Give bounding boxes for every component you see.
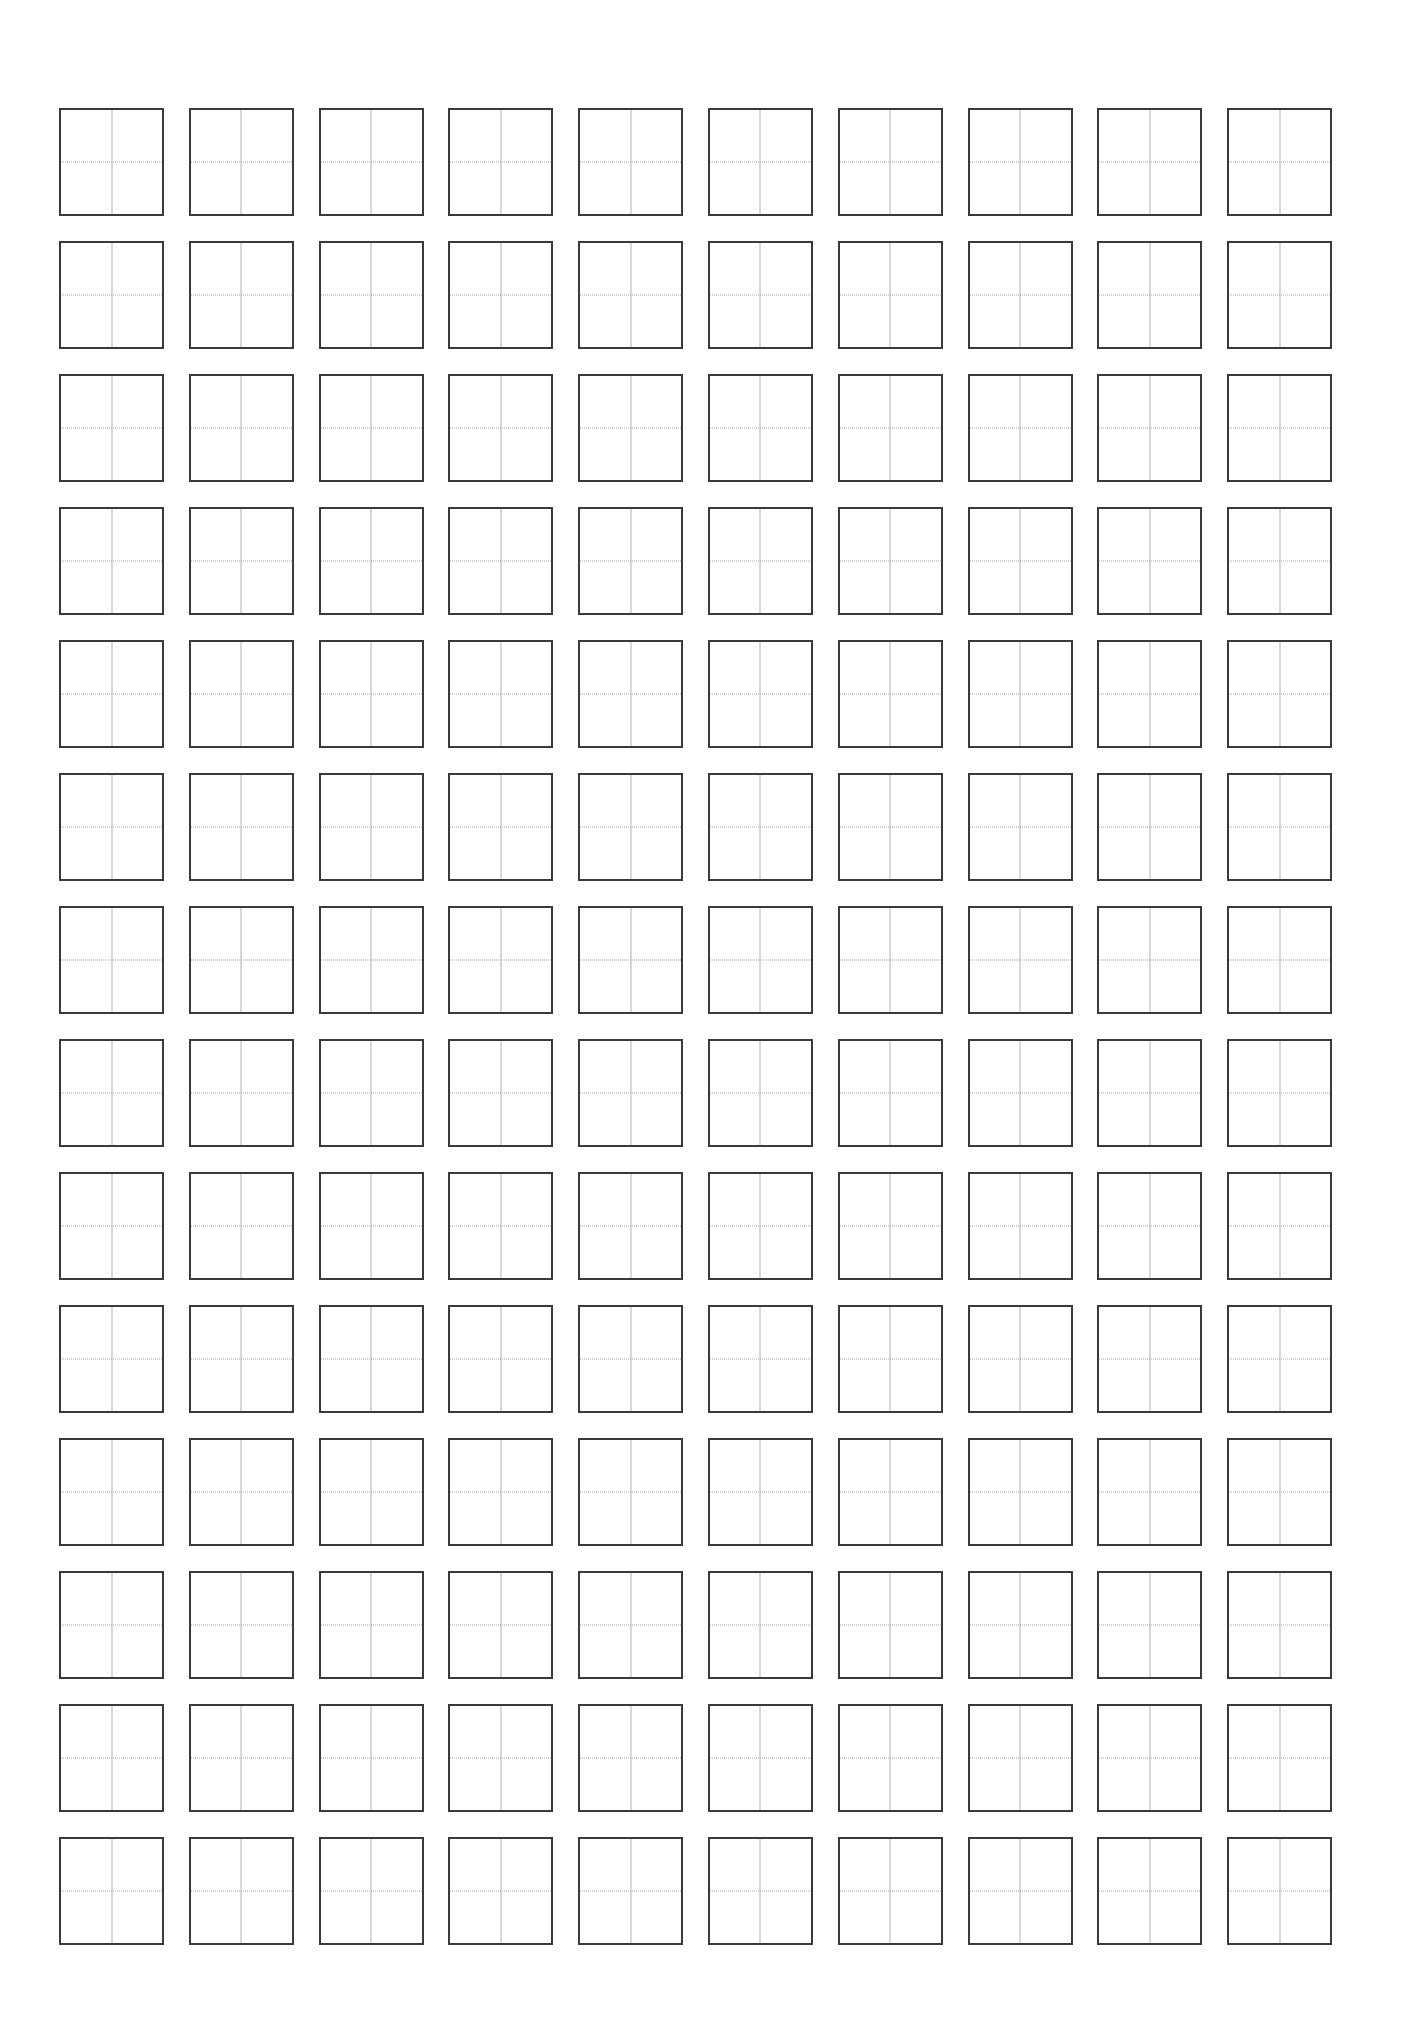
horizontal-guide-line bbox=[840, 960, 941, 961]
writing-cell bbox=[578, 773, 683, 881]
writing-cell bbox=[968, 1172, 1073, 1280]
writing-cell bbox=[838, 1704, 943, 1812]
writing-cell bbox=[59, 906, 164, 1014]
horizontal-guide-line bbox=[710, 1625, 811, 1626]
horizontal-guide-line bbox=[840, 827, 941, 828]
horizontal-guide-line bbox=[1099, 960, 1200, 961]
horizontal-guide-line bbox=[191, 694, 292, 695]
writing-cell bbox=[189, 507, 294, 615]
horizontal-guide-line bbox=[450, 1359, 551, 1360]
horizontal-guide-line bbox=[710, 162, 811, 163]
horizontal-guide-line bbox=[450, 561, 551, 562]
horizontal-guide-line bbox=[1229, 162, 1330, 163]
writing-cell bbox=[189, 1039, 294, 1147]
writing-cell bbox=[59, 241, 164, 349]
writing-cell bbox=[578, 241, 683, 349]
writing-cell bbox=[708, 1172, 813, 1280]
horizontal-guide-line bbox=[450, 960, 551, 961]
horizontal-guide-line bbox=[450, 428, 551, 429]
horizontal-guide-line bbox=[840, 694, 941, 695]
horizontal-guide-line bbox=[840, 162, 941, 163]
horizontal-guide-line bbox=[1099, 1226, 1200, 1227]
writing-cell bbox=[968, 507, 1073, 615]
horizontal-guide-line bbox=[840, 1891, 941, 1892]
writing-cell bbox=[319, 1305, 424, 1413]
horizontal-guide-line bbox=[450, 1891, 551, 1892]
writing-cell bbox=[1097, 773, 1202, 881]
writing-cell bbox=[968, 906, 1073, 1014]
horizontal-guide-line bbox=[840, 1093, 941, 1094]
writing-cell bbox=[838, 1305, 943, 1413]
writing-cell bbox=[838, 906, 943, 1014]
horizontal-guide-line bbox=[1099, 1758, 1200, 1759]
horizontal-guide-line bbox=[321, 1359, 422, 1360]
writing-cell bbox=[189, 374, 294, 482]
writing-cell bbox=[968, 1837, 1073, 1945]
writing-cell bbox=[59, 773, 164, 881]
horizontal-guide-line bbox=[191, 960, 292, 961]
horizontal-guide-line bbox=[321, 827, 422, 828]
horizontal-guide-line bbox=[1229, 1625, 1330, 1626]
writing-cell bbox=[448, 640, 553, 748]
horizontal-guide-line bbox=[970, 162, 1071, 163]
writing-cell bbox=[59, 374, 164, 482]
writing-cell bbox=[1227, 640, 1332, 748]
writing-cell bbox=[319, 773, 424, 881]
horizontal-guide-line bbox=[450, 694, 551, 695]
horizontal-guide-line bbox=[321, 561, 422, 562]
horizontal-guide-line bbox=[840, 428, 941, 429]
horizontal-guide-line bbox=[970, 694, 1071, 695]
writing-cell bbox=[968, 108, 1073, 216]
horizontal-guide-line bbox=[1229, 1226, 1330, 1227]
horizontal-guide-line bbox=[970, 1758, 1071, 1759]
horizontal-guide-line bbox=[1229, 1758, 1330, 1759]
horizontal-guide-line bbox=[1099, 561, 1200, 562]
writing-cell bbox=[968, 374, 1073, 482]
horizontal-guide-line bbox=[1099, 1359, 1200, 1360]
horizontal-guide-line bbox=[191, 1625, 292, 1626]
writing-cell bbox=[708, 1039, 813, 1147]
horizontal-guide-line bbox=[710, 561, 811, 562]
horizontal-guide-line bbox=[970, 960, 1071, 961]
writing-cell bbox=[708, 1571, 813, 1679]
writing-cell bbox=[189, 1305, 294, 1413]
writing-cell bbox=[1097, 1039, 1202, 1147]
horizontal-guide-line bbox=[710, 1359, 811, 1360]
horizontal-guide-line bbox=[970, 295, 1071, 296]
horizontal-guide-line bbox=[1099, 1891, 1200, 1892]
horizontal-guide-line bbox=[61, 561, 162, 562]
horizontal-guide-line bbox=[580, 295, 681, 296]
writing-cell bbox=[319, 1837, 424, 1945]
writing-cell bbox=[448, 1172, 553, 1280]
horizontal-guide-line bbox=[61, 960, 162, 961]
horizontal-guide-line bbox=[1229, 1359, 1330, 1360]
horizontal-guide-line bbox=[321, 295, 422, 296]
writing-cell bbox=[319, 640, 424, 748]
writing-cell bbox=[578, 1571, 683, 1679]
horizontal-guide-line bbox=[1099, 1093, 1200, 1094]
writing-cell bbox=[189, 1837, 294, 1945]
writing-cell bbox=[1097, 374, 1202, 482]
horizontal-guide-line bbox=[1229, 561, 1330, 562]
writing-cell bbox=[968, 1704, 1073, 1812]
writing-cell bbox=[578, 1837, 683, 1945]
writing-cell bbox=[319, 374, 424, 482]
horizontal-guide-line bbox=[710, 1758, 811, 1759]
writing-cell bbox=[578, 374, 683, 482]
writing-cell bbox=[189, 640, 294, 748]
horizontal-guide-line bbox=[191, 1492, 292, 1493]
horizontal-guide-line bbox=[191, 162, 292, 163]
writing-cell bbox=[968, 1571, 1073, 1679]
horizontal-guide-line bbox=[1229, 694, 1330, 695]
horizontal-guide-line bbox=[1229, 1891, 1330, 1892]
horizontal-guide-line bbox=[840, 561, 941, 562]
horizontal-guide-line bbox=[1099, 694, 1200, 695]
horizontal-guide-line bbox=[321, 428, 422, 429]
writing-cell bbox=[968, 773, 1073, 881]
horizontal-guide-line bbox=[191, 1226, 292, 1227]
writing-cell bbox=[578, 1704, 683, 1812]
writing-cell bbox=[578, 640, 683, 748]
writing-cell bbox=[578, 108, 683, 216]
horizontal-guide-line bbox=[61, 1492, 162, 1493]
writing-cell bbox=[1227, 241, 1332, 349]
